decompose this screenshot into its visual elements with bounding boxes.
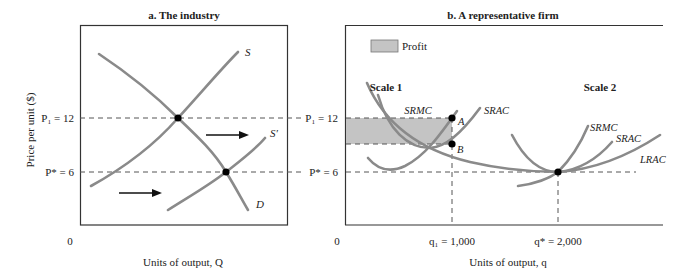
scale1-label: Scale 1 xyxy=(370,81,403,93)
panel-b-origin: 0 xyxy=(334,235,340,247)
demand-curve xyxy=(99,54,248,210)
shift-arrow-lower-icon xyxy=(119,189,162,197)
scale1-srmc-label: SRMC xyxy=(404,105,432,116)
panel-firm: b. A representative firm Profit Scale 1 xyxy=(305,9,666,268)
ylabel: Price per unit ($) xyxy=(24,92,37,167)
scale2-srmc-curve xyxy=(518,126,588,186)
point-a-label: A xyxy=(457,116,465,127)
q1-label: q₁ = 1,000 xyxy=(429,235,475,247)
figure: a. The industry S S′ D P₁ = 12 P* = 6 0 xyxy=(0,0,688,277)
panel-b-xlabel: Units of output, q xyxy=(469,256,547,268)
legend-profit-label: Profit xyxy=(402,40,427,52)
label-d: D xyxy=(255,198,264,210)
qstar-label: q* = 2,000 xyxy=(534,235,582,247)
panel-a-pstar-label: P* = 6 xyxy=(45,166,74,178)
scale2-srmc-label: SRMC xyxy=(590,122,618,133)
panel-b-p1-label: P₁ = 12 xyxy=(305,112,338,124)
panel-a-p1-label: P₁ = 12 xyxy=(41,112,74,124)
panel-b-title: b. A representative firm xyxy=(447,9,558,21)
panel-a-origin: 0 xyxy=(67,235,73,247)
panel-industry: a. The industry S S′ D P₁ = 12 P* = 6 0 xyxy=(24,9,305,268)
scale2-label: Scale 2 xyxy=(584,81,617,93)
scale1-srac-label: SRAC xyxy=(484,105,510,116)
supply-shifted-curve xyxy=(168,138,265,210)
point-b xyxy=(448,140,455,147)
scale2-srac-label: SRAC xyxy=(616,133,642,144)
lrac-label: LRAC xyxy=(639,154,667,165)
point-b-label: B xyxy=(457,144,464,155)
label-s: S xyxy=(245,46,251,58)
equilibrium-point-longrun xyxy=(222,168,229,175)
label-s-prime: S′ xyxy=(270,127,279,139)
legend-profit-swatch xyxy=(371,40,398,52)
panel-a-title: a. The industry xyxy=(148,9,220,21)
point-a xyxy=(448,114,455,121)
panel-a-xlabel: Units of output, Q xyxy=(143,256,223,268)
equilibrium-point-initial xyxy=(174,114,181,121)
panel-b-pstar-label: P* = 6 xyxy=(309,166,338,178)
supply-curve xyxy=(91,52,238,186)
shift-arrow-upper-icon xyxy=(206,131,249,139)
point-lrac-min xyxy=(554,168,561,175)
